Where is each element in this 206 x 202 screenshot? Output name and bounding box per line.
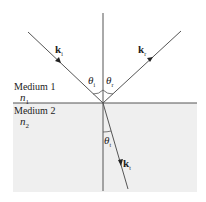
medium-2-index: n2 bbox=[20, 116, 29, 130]
refraction-diagram: ki kr kt θi θr θt Medium 1 n1 Medium 2 n… bbox=[0, 0, 206, 202]
reflected-angle-label: θr bbox=[106, 75, 113, 88]
incident-ray bbox=[28, 32, 103, 103]
incident-angle-arc bbox=[93, 90, 103, 94]
incident-vector-label: ki bbox=[55, 44, 63, 57]
reflected-vector-label: kr bbox=[138, 44, 146, 57]
transmitted-vector-label: kt bbox=[123, 158, 131, 171]
incident-angle-label: θi bbox=[88, 75, 95, 88]
transmitted-angle-label: θt bbox=[104, 135, 111, 148]
reflected-ray bbox=[103, 31, 181, 103]
reflected-angle-arc bbox=[103, 90, 113, 94]
diagram-canvas bbox=[0, 0, 206, 202]
